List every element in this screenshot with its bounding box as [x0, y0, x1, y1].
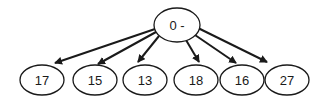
- child-node: 17: [20, 65, 64, 95]
- edge-arrow: [55, 29, 155, 63]
- node-label: 0 -: [169, 18, 184, 33]
- child-node: 16: [220, 65, 264, 95]
- node-label: 27: [280, 73, 294, 88]
- child-node: 27: [265, 65, 309, 95]
- node-label: 15: [88, 73, 102, 88]
- node-label: 17: [35, 73, 49, 88]
- child-node: 15: [73, 65, 117, 95]
- child-node: 13: [123, 65, 167, 95]
- node-label: 18: [189, 73, 203, 88]
- edge-arrow: [98, 32, 156, 64]
- edge-arrow: [195, 35, 236, 63]
- node-label: 13: [138, 73, 152, 88]
- node-label: 16: [235, 73, 249, 88]
- child-node: 18: [174, 65, 218, 95]
- nodes-group: 0 -171513181627: [20, 8, 309, 95]
- edge-arrow: [186, 40, 199, 62]
- root-node: 0 -: [154, 8, 200, 42]
- tree-diagram: 0 -171513181627: [0, 0, 326, 101]
